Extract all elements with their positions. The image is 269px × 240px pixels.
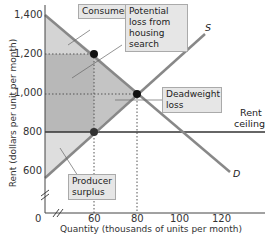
x-tick-0: 0 — [35, 213, 41, 224]
potential-loss-label: Potential loss from housing search — [125, 4, 188, 52]
point-60-800 — [90, 128, 98, 136]
x-tick-80: 80 — [131, 213, 144, 224]
y-tick-1000: 1,000 — [14, 87, 43, 98]
y-tick-800: 800 — [23, 126, 42, 137]
point-80-1000 — [133, 90, 141, 98]
y-tick-600: 600 — [23, 165, 42, 176]
demand-label: D — [233, 168, 240, 179]
y-tick-1200: 1,200 — [14, 48, 43, 59]
deadweight-loss-area — [94, 54, 137, 132]
x-tick-120: 120 — [212, 213, 231, 224]
producer-surplus-label: Producer surplus — [68, 174, 116, 200]
potential-loss-area — [45, 54, 94, 132]
x-axis-label: Quantity (thousands of units per month) — [60, 224, 242, 234]
x-tick-100: 100 — [170, 213, 189, 224]
x-tick-60: 60 — [88, 213, 101, 224]
deadweight-loss-label: Deadweight loss — [162, 87, 222, 113]
point-60-1200 — [90, 50, 98, 58]
y-tick-1400: 1,400 — [14, 9, 43, 20]
supply-label: S — [205, 22, 211, 33]
rent-label: Rent — [240, 107, 262, 118]
y-axis-label: Rent (dollars per unit per month) — [8, 38, 18, 188]
ceiling-label: ceiling — [234, 118, 265, 129]
